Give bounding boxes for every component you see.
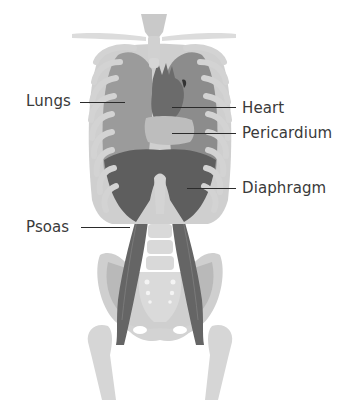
label-pericardium: Pericardium xyxy=(242,124,332,142)
label-heart: Heart xyxy=(242,99,284,117)
lungs-leader-line xyxy=(80,102,125,103)
heart-leader-line xyxy=(172,107,236,108)
diaphragm-leader-line xyxy=(187,188,236,189)
skeleton-illustration xyxy=(0,0,359,409)
psoas-leader-line xyxy=(81,227,130,228)
pericardium xyxy=(145,116,194,145)
anatomy-diagram: Lungs Heart Pericardium Diaphragm Psoas xyxy=(0,0,359,409)
pericardium-leader-line xyxy=(172,133,236,134)
label-diaphragm: Diaphragm xyxy=(242,179,326,197)
label-lungs: Lungs xyxy=(26,92,71,110)
label-psoas: Psoas xyxy=(26,218,69,236)
